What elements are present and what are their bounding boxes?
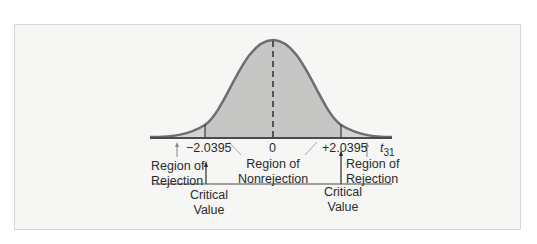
t-distribution-diagram <box>0 0 537 244</box>
nonrejection-pointer-right <box>305 142 317 155</box>
left-rejection-label: Region of Rejection <box>151 159 205 189</box>
tick-left-critical: −2.0395 <box>186 141 232 156</box>
arrowhead-icon <box>175 142 179 147</box>
left-critical-value-label: Critical Value <box>184 188 234 218</box>
right-critical-value-label: Critical Value <box>318 185 368 215</box>
right-rejection-label: Region of Rejection <box>346 157 400 187</box>
tick-right-critical: +2.0395 <box>322 141 368 156</box>
tick-center: 0 <box>269 141 276 156</box>
nonrejection-region-fill <box>150 40 392 138</box>
nonrejection-label: Region of Nonrejection <box>236 157 310 187</box>
